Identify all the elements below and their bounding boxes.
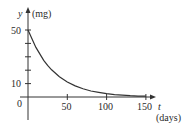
y-tick-label-10: 10 — [11, 78, 21, 89]
origin-label: 0 — [17, 98, 22, 109]
x-tick-label-50: 50 — [62, 101, 72, 112]
decay-curve — [28, 30, 146, 96]
decay-chart: y (mg) 50 10 0 50 100 150 t (days) — [0, 0, 194, 132]
x-axis-label: t — [158, 101, 161, 112]
x-tick-label-150: 150 — [137, 101, 152, 112]
y-tick-label-50: 50 — [11, 25, 21, 36]
x-axis-arrow-icon — [150, 95, 156, 100]
y-axis-label: y — [17, 8, 23, 19]
x-axis-unit: (days) — [156, 112, 181, 124]
y-axis-unit: (mg) — [32, 8, 51, 20]
x-tick-label-100: 100 — [98, 101, 113, 112]
y-axis-arrow-icon — [26, 7, 31, 13]
